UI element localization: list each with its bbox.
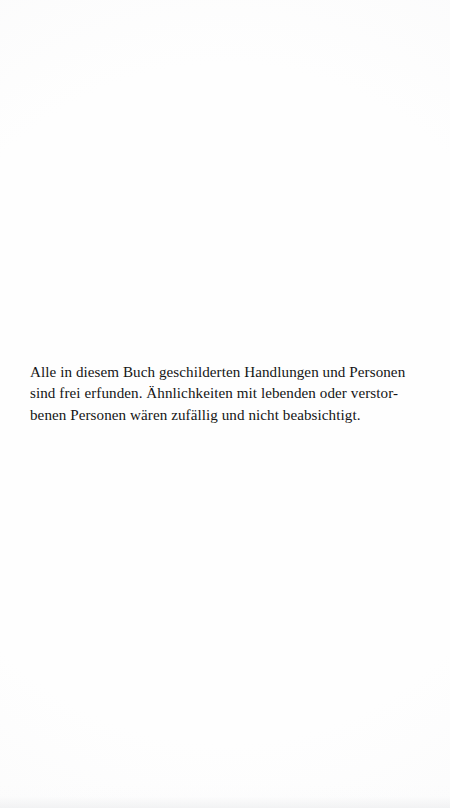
disclaimer-line-3: benen Personen wären zufällig und nicht … bbox=[30, 405, 424, 426]
disclaimer-line-2: sind frei erfunden. Ähnlichkeiten mit le… bbox=[30, 383, 424, 404]
disclaimer-paragraph: Alle in diesem Buch geschilderten Handlu… bbox=[30, 362, 424, 426]
upper-blank-margin bbox=[0, 0, 450, 360]
lower-blank-margin bbox=[0, 436, 450, 808]
book-page: Alle in diesem Buch geschilderten Handlu… bbox=[0, 0, 450, 808]
disclaimer-line-1: Alle in diesem Buch geschilderten Handlu… bbox=[30, 362, 424, 383]
